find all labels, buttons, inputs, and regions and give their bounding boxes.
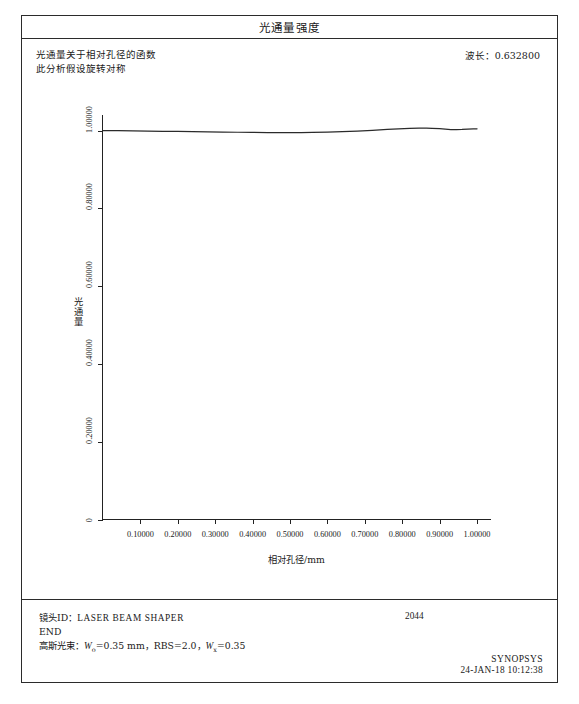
header-info-block: 光通量关于相对孔径的函数 此分析假设旋转对称 波长：0.632800 xyxy=(22,39,557,101)
x-axis-tick-label: 0.70000 xyxy=(351,531,378,539)
lens-id-line: 镜头ID：LASER BEAM SHAPER xyxy=(39,611,543,625)
rbs-value: RBS=2.0， xyxy=(154,640,206,651)
y-axis-title: 光通量 xyxy=(74,297,83,327)
y-axis-tick xyxy=(98,131,103,132)
x-axis-tick xyxy=(402,519,403,524)
x-axis-tick-label: 0.90000 xyxy=(426,531,453,539)
x-axis-tick xyxy=(365,519,366,524)
x-axis-tick-label: 0.10000 xyxy=(127,531,154,539)
x-axis-tick-label: 0.30000 xyxy=(202,531,229,539)
wx-value: =0.35 xyxy=(217,640,246,651)
report-page: 光通量强度 光通量关于相对孔径的函数 此分析假设旋转对称 波长：0.632800… xyxy=(21,15,558,683)
lens-id-value: LASER BEAM SHAPER xyxy=(77,613,184,623)
gaussian-label: 高斯光束： xyxy=(39,640,84,651)
y-axis-tick xyxy=(98,442,103,443)
lens-number: 2044 xyxy=(405,611,424,621)
brand-block: SYNOPSYS 24-JAN-18 10:12:38 xyxy=(460,654,543,675)
x-axis-tick-label: 1.00000 xyxy=(464,531,491,539)
x-axis-tick xyxy=(215,519,216,524)
x-axis-tick xyxy=(140,519,141,524)
x-axis-tick xyxy=(290,519,291,524)
x-axis-tick xyxy=(440,519,441,524)
x-axis-tick xyxy=(327,519,328,524)
x-axis-tick-label: 0.80000 xyxy=(389,531,416,539)
x-axis-tick-label: 0.50000 xyxy=(277,531,304,539)
wavelength-label: 波长： xyxy=(465,50,495,61)
x-axis-tick xyxy=(178,519,179,524)
y-axis-tick xyxy=(98,286,103,287)
x-axis-tick-label: 0.40000 xyxy=(239,531,266,539)
brand-name: SYNOPSYS xyxy=(460,654,543,664)
end-marker: END xyxy=(39,625,543,639)
footer-block: 镜头ID：LASER BEAM SHAPER END 高斯光束：Wo=0.35 … xyxy=(22,599,557,682)
wavelength-readout: 波长：0.632800 xyxy=(465,48,540,62)
x-axis-tick-label: 0.60000 xyxy=(314,531,341,539)
y-axis-tick xyxy=(98,520,103,521)
wavelength-value: 0.632800 xyxy=(495,50,540,61)
x-axis-title: 相对孔径/mm xyxy=(102,552,491,566)
x-axis-tick xyxy=(477,519,478,524)
w0-symbol: W xyxy=(84,641,92,651)
description-line-2: 此分析假设旋转对称 xyxy=(36,62,543,76)
x-axis-tick-label: 0.20000 xyxy=(164,531,191,539)
chart-area: 光通量 00.200000.400000.600000.800001.00000… xyxy=(22,101,557,599)
window-title-bar: 光通量强度 xyxy=(22,16,557,39)
x-axis-tick xyxy=(253,519,254,524)
plot-frame: 00.200000.400000.600000.800001.000000.10… xyxy=(102,115,491,520)
flux-curve xyxy=(103,115,492,520)
y-axis-tick xyxy=(98,208,103,209)
w0-value: =0.35 mm， xyxy=(96,640,154,651)
timestamp: 24-JAN-18 10:12:38 xyxy=(460,665,543,675)
page-title: 光通量强度 xyxy=(259,19,320,35)
y-axis-tick xyxy=(98,364,103,365)
lens-id-label: 镜头ID： xyxy=(39,612,77,623)
